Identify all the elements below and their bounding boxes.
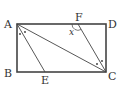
angle-mark-dot <box>101 60 103 62</box>
point-label-f: F <box>75 11 83 24</box>
angle-mark-dot <box>19 33 21 35</box>
point-label-c: C <box>108 70 116 83</box>
angle-label-x: x <box>69 27 74 37</box>
diagonal-ac <box>17 24 106 72</box>
point-label-d: D <box>108 18 117 31</box>
point-label-e: E <box>41 74 49 87</box>
point-label-b: B <box>4 67 12 80</box>
geometry-diagram: A F D B E C x <box>0 0 129 96</box>
angle-mark-dot <box>24 31 26 33</box>
angle-mark-dot <box>96 63 98 65</box>
point-label-a: A <box>3 18 13 31</box>
